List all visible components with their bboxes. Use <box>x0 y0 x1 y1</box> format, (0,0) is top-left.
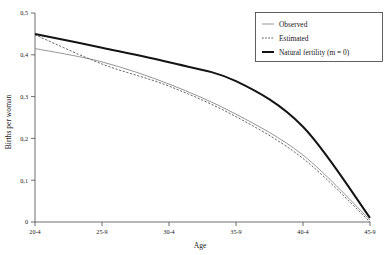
legend-label-natural-fertility: Natural fertility (m = 0) <box>279 48 350 57</box>
series-line-estimated <box>35 35 370 222</box>
x-axis-title: Age <box>194 241 207 250</box>
x-tick-label-30-4: 30-4 <box>163 228 174 235</box>
y-axis-title: Births per woman <box>4 95 13 150</box>
x-tick-label-45-9: 45-9 <box>364 228 375 235</box>
y-tick-label-0.5: 0,5 <box>20 9 28 16</box>
legend-label-observed: Observed <box>279 20 308 29</box>
y-tick-label-0.3: 0,3 <box>20 93 28 100</box>
x-tick-label-35-9: 35-9 <box>230 228 241 235</box>
fertility-chart-figure: 0,5 0,4 0,3 0,2 0,1 0 20-4 25-9 30-4 35-… <box>0 0 387 255</box>
y-tick-label-0: 0 <box>25 218 28 225</box>
x-tick-label-40-4: 40-4 <box>297 228 308 235</box>
y-tick-label-0.4: 0,4 <box>20 51 28 58</box>
x-tick-label-20-4: 20-4 <box>29 228 40 235</box>
legend-label-estimated: Estimated <box>279 34 309 43</box>
chart-plot-area: 0,5 0,4 0,3 0,2 0,1 0 20-4 25-9 30-4 35-… <box>0 0 387 255</box>
y-tick-label-0.2: 0,2 <box>20 135 28 142</box>
x-tick-label-25-9: 25-9 <box>96 228 107 235</box>
series-line-observed <box>35 49 370 220</box>
y-tick-label-0.1: 0,1 <box>20 177 28 184</box>
